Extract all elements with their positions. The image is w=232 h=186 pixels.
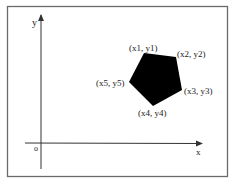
vertex-label-1: (x1, y1) xyxy=(129,43,158,53)
x-axis xyxy=(25,143,202,144)
x-axis-label: x xyxy=(196,147,201,157)
vertex-label-5: (x5, y5) xyxy=(96,78,125,88)
diagram-canvas: y x o (x1, y1) (x2, y2) (x3, y3) (x4, y4… xyxy=(0,0,232,186)
pentagon-shape xyxy=(129,53,182,106)
vertex-label-4: (x4, y4) xyxy=(138,108,167,118)
origin-label: o xyxy=(34,144,38,153)
vertex-label-2: (x2, y2) xyxy=(177,49,206,59)
vertex-label-3: (x3, y3) xyxy=(184,86,213,96)
y-axis-label: y xyxy=(32,17,37,28)
coordinate-diagram: y x o (x1, y1) (x2, y2) (x3, y3) (x4, y4… xyxy=(0,0,232,186)
